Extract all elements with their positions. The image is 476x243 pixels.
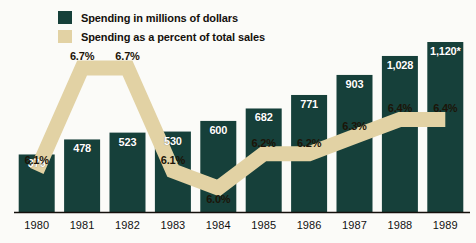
percent-label-1988: 6.4%: [388, 102, 412, 114]
x-axis-tick-label-1982: 1982: [115, 219, 140, 231]
bar-1988: [382, 56, 418, 212]
legend-item-spending-dollars: Spending in millions of dollars: [58, 9, 378, 26]
legend-label-spending-percent: Spending as a percent of total sales: [81, 31, 265, 43]
legend-label-spending-dollars: Spending in millions of dollars: [81, 12, 238, 24]
percent-label-1985: 6.2%: [252, 137, 276, 149]
legend-item-spending-percent: Spending as a percent of total sales: [58, 28, 378, 45]
bar-value-label-1988: 1,028: [387, 59, 414, 71]
x-axis-tick-label-1988: 1988: [387, 219, 412, 231]
x-axis-tick-label-1980: 1980: [24, 219, 49, 231]
bar-1989: [427, 42, 463, 212]
percent-label-1986: 6.2%: [297, 137, 321, 149]
x-axis-tick-label-1987: 1987: [342, 219, 367, 231]
x-axis-tick-label-1981: 1981: [70, 219, 95, 231]
bar-value-label-1982: 523: [119, 136, 137, 148]
x-axis-tick-label-1984: 1984: [206, 219, 231, 231]
bar-value-label-1981: 478: [73, 142, 91, 154]
bar-value-label-1986: 771: [300, 98, 318, 110]
chart-legend: Spending in millions of dollars Spending…: [58, 9, 378, 47]
bar-value-label-1987: 903: [346, 78, 364, 90]
percent-label-1980: 6.1%: [25, 154, 49, 166]
percent-label-1989: 6.4%: [433, 102, 457, 114]
spending-chart: Spending in millions of dollars Spending…: [0, 0, 476, 243]
bar-value-label-1984: 600: [209, 124, 227, 136]
x-axis-tick-label-1986: 1986: [297, 219, 322, 231]
percent-label-1984: 6.0%: [206, 193, 230, 205]
percent-label-1981: 6.7%: [70, 50, 94, 62]
x-axis-tick-label-1985: 1985: [251, 219, 276, 231]
percent-label-1982: 6.7%: [115, 50, 139, 62]
x-axis-tick-label-1983: 1983: [160, 219, 185, 231]
bar-value-label-1989: 1,120*: [430, 45, 461, 57]
percent-label-1987: 6.3%: [342, 120, 366, 132]
x-axis-tick-label-1989: 1989: [433, 219, 458, 231]
legend-swatch-icon-green: [58, 11, 72, 24]
bar-value-label-1985: 682: [255, 111, 273, 123]
bar-value-label-1983: 530: [164, 135, 182, 147]
percent-label-1983: 6.1%: [161, 154, 185, 166]
legend-swatch-icon-tan: [58, 30, 72, 43]
